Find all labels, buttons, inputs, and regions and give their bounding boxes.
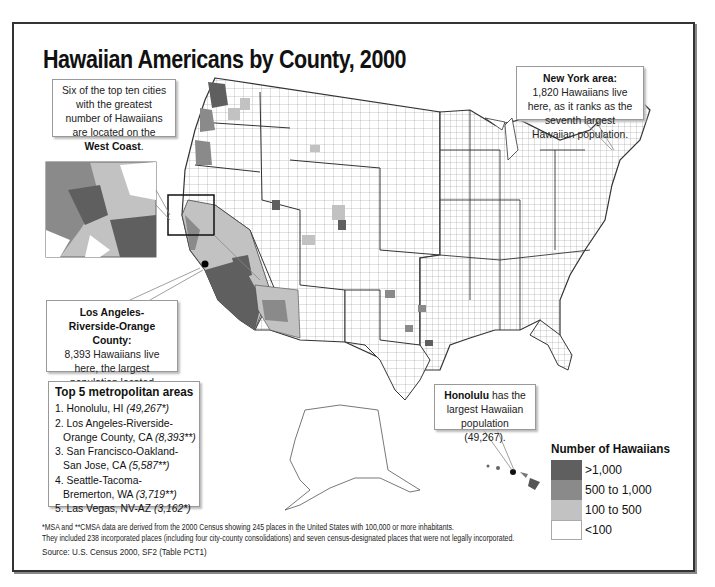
metro-name: Las Vegas, NV-AZ — [67, 502, 152, 514]
top5-item: 2. Los Angeles-Riverside- — [55, 416, 179, 430]
legend-swatch — [551, 480, 582, 500]
top5-item-cont: Orange County, CA (8,393**) — [55, 430, 179, 444]
metro-value: (8,393**) — [155, 431, 196, 443]
metro-name: Honolulu, HI — [67, 402, 124, 414]
metro-value: (3,162*) — [154, 502, 191, 514]
los-angeles-heading: Los Angeles-Riverside-Orange County: — [69, 306, 155, 346]
legend-label: 100 to 500 — [585, 503, 642, 517]
rank: 1. — [55, 402, 64, 414]
metro-name-cont: San Jose, CA — [63, 459, 126, 471]
legend-title: Number of Hawaiians — [551, 441, 677, 456]
footnote-line: They included 238 incorporated places (i… — [42, 533, 514, 544]
metro-value: (49,267*) — [126, 402, 169, 414]
top5-list: 1. Honolulu, HI (49,267*) 2. Los Angeles… — [55, 401, 193, 515]
west-coast-bold: West Coast — [84, 140, 140, 152]
legend-swatch — [551, 460, 582, 480]
western-states — [182, 78, 440, 358]
metro-name: Los Angeles-Riverside- — [67, 417, 173, 429]
los-angeles-marker — [202, 261, 209, 268]
map-title: Hawaiian Americans by County, 2000 — [43, 45, 406, 74]
legend-swatch — [551, 500, 582, 520]
rank: 5. — [55, 502, 64, 514]
top5-item-cont: San Jose, CA (5,587**) — [55, 458, 179, 472]
footnote: *MSA and **CMSA data are derived from th… — [42, 522, 514, 543]
legend: Number of Hawaiians >1,000 500 to 1,000 … — [551, 441, 691, 540]
legend-label: >1,000 — [585, 463, 622, 477]
rank: 2. — [55, 417, 64, 429]
legend-item: <100 — [551, 520, 691, 540]
top5-item: 3. San Francisco-Oakland- — [55, 444, 179, 458]
rank: 4. — [55, 474, 64, 486]
new-york-heading: New York area: — [543, 72, 617, 84]
alaska — [285, 405, 420, 510]
west-coast-period: . — [141, 140, 144, 152]
legend-item: >1,000 — [551, 460, 691, 480]
legend-label: 500 to 1,000 — [585, 483, 652, 497]
west-coast-text: Six of the top ten cities with the great… — [62, 84, 166, 138]
honolulu-callout: Honolulu has the largest Hawaiian popula… — [434, 384, 536, 430]
top5-heading: Top 5 metropolitan areas — [55, 385, 179, 399]
top5-item-cont: Bremerton, WA (3,719**) — [55, 487, 179, 501]
legend-item: 500 to 1,000 — [551, 480, 691, 500]
los-angeles-callout: Los Angeles-Riverside-Orange County:8,39… — [46, 300, 178, 372]
west-coast-callout: Six of the top ten cities with the great… — [52, 79, 176, 137]
legend-label: <100 — [585, 523, 612, 537]
metro-value: (5,587**) — [129, 459, 170, 471]
legend-swatch — [551, 520, 582, 540]
rank: 3. — [55, 445, 64, 457]
metro-name: Seattle-Tacoma- — [67, 474, 142, 486]
top5-item: 5. Las Vegas, NV-AZ (3,162*) — [55, 501, 179, 515]
metro-name: San Francisco-Oakland- — [67, 445, 179, 457]
footnote-line: *MSA and **CMSA data are derived from th… — [42, 522, 514, 533]
honolulu-bold: Honolulu — [444, 389, 489, 401]
top5-metro-box: Top 5 metropolitan areas 1. Honolulu, HI… — [48, 381, 200, 507]
top5-item: 1. Honolulu, HI (49,267*) — [55, 401, 179, 415]
metro-value: (3,719**) — [136, 488, 177, 500]
top5-item: 4. Seattle-Tacoma- — [55, 473, 179, 487]
legend-item: 100 to 500 — [551, 500, 691, 520]
metro-name-cont: Bremerton, WA — [63, 488, 133, 500]
metro-name-cont: Orange County, CA — [63, 431, 152, 443]
new-york-body: 1,820 Hawaiians live here, as it ranks a… — [528, 86, 633, 140]
source-note: Source: U.S. Census 2000, SF2 (Table PCT… — [42, 546, 207, 557]
new-york-callout: New York area:1,820 Hawaiians live here,… — [516, 66, 644, 120]
